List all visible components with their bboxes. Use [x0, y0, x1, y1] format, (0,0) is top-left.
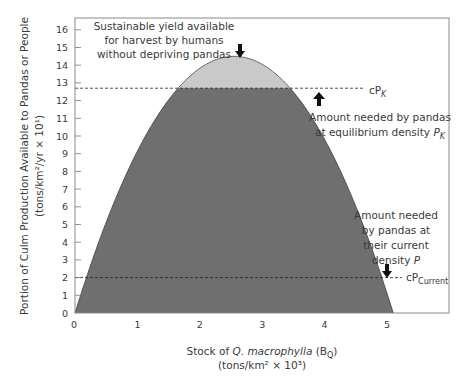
y-tick-label: 15 — [56, 42, 68, 53]
svg-text:their current: their current — [363, 239, 429, 251]
y-axis-units: (tons/km²/yr × 10¹) — [33, 115, 45, 217]
x-axis-label: Stock of Q. macrophylla (BQ) — [187, 345, 338, 360]
y-tick-label: 13 — [56, 77, 68, 88]
x-tick-label: 5 — [384, 319, 390, 330]
cpk-label: cPK — [369, 84, 387, 99]
y-tick-label: 7 — [62, 184, 68, 195]
x-tick-label: 3 — [259, 319, 265, 330]
x-tick-label: 2 — [197, 319, 203, 330]
svg-text:without depriving pandas: without depriving pandas — [97, 48, 231, 60]
svg-text:for harvest by humans: for harvest by humans — [104, 34, 223, 46]
x-tick-label: 0 — [71, 319, 77, 330]
y-tick-label: 1 — [62, 290, 68, 301]
annotation-sustainable-yield: Sustainable yield available for harvest … — [94, 20, 235, 60]
y-tick-label: 3 — [62, 254, 68, 265]
y-tick-label: 9 — [62, 148, 68, 159]
y-tick-label: 14 — [56, 60, 68, 71]
svg-text:at equilibrium density PK: at equilibrium density PK — [315, 126, 446, 141]
svg-text:by pandas at: by pandas at — [362, 224, 430, 236]
y-tick-label: 5 — [62, 219, 68, 230]
y-tick-label: 10 — [56, 131, 68, 142]
y-tick-label: 8 — [62, 166, 68, 177]
svg-text:density P: density P — [372, 254, 421, 266]
arrow-down-sustainable-icon — [235, 44, 245, 58]
x-tick-label: 4 — [322, 319, 328, 330]
arrow-up-equilibrium-icon — [313, 92, 325, 106]
chart: 012345678910111213141516 012345 Portion … — [0, 0, 466, 386]
x-axis-units: (tons/km² × 10³) — [218, 359, 306, 371]
annotation-amount-equilibrium: Amount needed by pandas at equilibrium d… — [309, 111, 451, 141]
y-tick-label: 2 — [62, 272, 68, 283]
y-tick-label: 16 — [56, 24, 68, 35]
arrow-down-current-icon — [382, 264, 392, 278]
svg-text:Sustainable yield available: Sustainable yield available — [94, 20, 235, 32]
svg-text:Amount needed: Amount needed — [354, 209, 438, 221]
y-tick-label: 0 — [62, 308, 68, 319]
svg-text:Amount needed by pandas: Amount needed by pandas — [309, 111, 451, 123]
y-tick-label: 6 — [62, 201, 68, 212]
y-axis-label: Portion of Culm Production Available to … — [18, 17, 30, 315]
cpcurrent-label: cPCurrent — [406, 271, 448, 286]
y-tick-label: 4 — [62, 237, 68, 248]
y-tick-label: 11 — [56, 113, 68, 124]
y-tick-label: 12 — [56, 95, 68, 106]
x-tick-label: 1 — [134, 319, 140, 330]
